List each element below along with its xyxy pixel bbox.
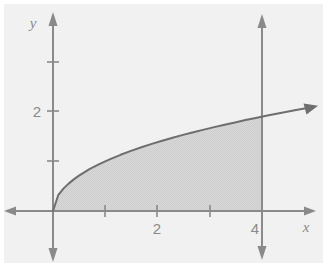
x-axis-label: x [302,219,310,235]
plot-background [4,4,323,263]
figure-container: y x 2 2 4 [0,0,327,267]
x-tick-label-2: 2 [153,220,161,237]
y-tick-label-2: 2 [33,103,41,120]
function-plot: y x 2 2 4 [0,0,327,267]
x-tick-label-4: 4 [251,220,259,237]
y-axis-label: y [28,15,37,31]
